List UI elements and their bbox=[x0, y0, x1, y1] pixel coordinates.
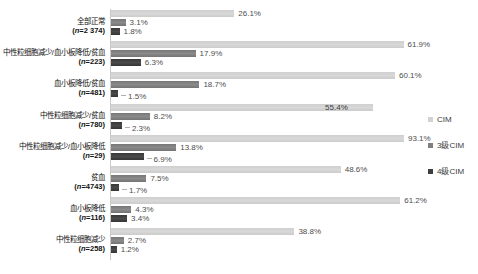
category-label: 血小板降低/贫血(n=481) bbox=[0, 79, 105, 97]
chart-row: 中性粒细胞减少(n=258)38.8%2.7%1.2% bbox=[0, 228, 478, 256]
category-label: 血小板降低(n=116) bbox=[0, 204, 105, 222]
bar-row-cim: 48.6% bbox=[111, 166, 474, 173]
bar-cim bbox=[111, 10, 234, 17]
bar-cim bbox=[111, 41, 404, 48]
category-name: 贫血 bbox=[0, 173, 105, 182]
value-label: 1.5% bbox=[121, 92, 146, 101]
category-n-label: (n=4743) bbox=[0, 182, 105, 191]
legend: CIM3级CIM4级CIM bbox=[428, 115, 464, 176]
legend-label-g4: 4级CIM bbox=[437, 167, 464, 176]
bar-g4 bbox=[111, 184, 119, 191]
leader-line bbox=[125, 127, 130, 128]
legend-label-g3: 3级CIM bbox=[437, 141, 464, 150]
value-label: 7.5% bbox=[150, 174, 168, 183]
bar-g3 bbox=[111, 144, 176, 151]
bar-g4 bbox=[111, 90, 118, 97]
value-label: 1.2% bbox=[121, 245, 139, 254]
category-n-label: (n=258) bbox=[0, 244, 105, 253]
plot-area: 全部正常(n=2 374)26.1%3.1%1.8%中性粒细胞减少/血小板降低/… bbox=[0, 10, 478, 264]
value-label: 3.1% bbox=[130, 18, 148, 27]
chart-row: 中性粒细胞减少/血小板降低/贫血(n=223)61.9%17.9%6.3% bbox=[0, 41, 478, 69]
category-name: 血小板降低/贫血 bbox=[0, 79, 105, 88]
value-label: 6.3% bbox=[145, 58, 163, 67]
value-label: 18.7% bbox=[203, 80, 226, 89]
bar-cim bbox=[111, 135, 404, 142]
category-label: 中性粒细胞减少/血小板降低(n=29) bbox=[0, 142, 105, 160]
bar-row-g3: 13.8% bbox=[111, 144, 474, 151]
bar-row-cim: 61.2% bbox=[111, 197, 474, 204]
chart-row: 中性粒细胞减少/贫血(n=780)55.4%8.2%2.3% bbox=[0, 104, 478, 132]
bar-g4 bbox=[111, 153, 144, 160]
bar-cim bbox=[111, 228, 294, 235]
value-label: 2.3% bbox=[125, 124, 150, 133]
bar-g4 bbox=[111, 215, 127, 222]
bar-g3 bbox=[111, 81, 199, 88]
bar-row-cim: 93.1% bbox=[111, 135, 474, 142]
value-label: 26.1% bbox=[238, 9, 261, 18]
value-label: 48.6% bbox=[345, 165, 368, 174]
bar-row-g4: 1.2% bbox=[111, 246, 474, 253]
legend-item-cim: CIM bbox=[428, 115, 464, 124]
bar-row-cim: 61.9% bbox=[111, 41, 474, 48]
bar-row-g4: 6.9% bbox=[111, 153, 474, 160]
category-name: 中性粒细胞减少/血小板降低/贫血 bbox=[0, 48, 105, 57]
category-name: 全部正常 bbox=[0, 17, 105, 26]
bar-g4 bbox=[111, 59, 141, 66]
legend-item-g3: 3级CIM bbox=[428, 141, 464, 150]
bar-g4 bbox=[111, 122, 122, 129]
chart-row: 中性粒细胞减少/血小板降低(n=29)93.1%13.8%6.9% bbox=[0, 135, 478, 163]
leader-line bbox=[121, 95, 126, 96]
category-label: 贫血(n=4743) bbox=[0, 173, 105, 191]
category-n-label: (n=223) bbox=[0, 57, 105, 66]
value-label: 1.7% bbox=[122, 186, 147, 195]
bar-row-g4: 1.5% bbox=[111, 90, 474, 97]
value-label: 3.4% bbox=[131, 214, 149, 223]
value-label: 2.7% bbox=[128, 236, 146, 245]
bar-row-g4: 6.3% bbox=[111, 59, 474, 66]
category-label: 全部正常(n=2 374) bbox=[0, 17, 105, 35]
leader-line bbox=[122, 189, 127, 190]
bar-row-g3: 17.9% bbox=[111, 50, 474, 57]
chart-row: 血小板降低(n=116)61.2%4.3%3.4% bbox=[0, 197, 478, 225]
value-label: 4.3% bbox=[135, 205, 153, 214]
category-n-label: (n=2 374) bbox=[0, 26, 105, 35]
chart-row: 贫血(n=4743)48.6%7.5%1.7% bbox=[0, 166, 478, 194]
legend-label-cim: CIM bbox=[437, 115, 452, 124]
bar-g3 bbox=[111, 206, 131, 213]
bar-row-g3: 8.2% bbox=[111, 113, 474, 120]
bar-g3 bbox=[111, 19, 126, 26]
bar-row-g3: 3.1% bbox=[111, 19, 474, 26]
bar-cim bbox=[111, 72, 395, 79]
bar-row-g4: 3.4% bbox=[111, 215, 474, 222]
value-label: 6.9% bbox=[147, 155, 172, 164]
bar-row-cim: 55.4% bbox=[111, 104, 474, 111]
bar-row-g4: 1.8% bbox=[111, 28, 474, 35]
category-label: 中性粒细胞减少/血小板降低/贫血(n=223) bbox=[0, 48, 105, 66]
bar-g3 bbox=[111, 50, 196, 57]
chart-row: 血小板降低/贫血(n=481)60.1%18.7%1.5% bbox=[0, 72, 478, 100]
category-label: 中性粒细胞减少(n=258) bbox=[0, 235, 105, 253]
bar-row-cim: 38.8% bbox=[111, 228, 474, 235]
category-name: 中性粒细胞减少/贫血 bbox=[0, 111, 105, 120]
legend-swatch-g3 bbox=[428, 143, 433, 148]
category-name: 中性粒细胞减少/血小板降低 bbox=[0, 142, 105, 151]
bar-g3 bbox=[111, 113, 150, 120]
value-label: 38.8% bbox=[298, 227, 321, 236]
bar-row-g3: 18.7% bbox=[111, 81, 474, 88]
bar-g4 bbox=[111, 28, 120, 35]
value-label: 1.8% bbox=[124, 27, 142, 36]
bar-row-cim: 60.1% bbox=[111, 72, 474, 79]
value-label: 61.2% bbox=[404, 196, 427, 205]
legend-item-g4: 4级CIM bbox=[428, 167, 464, 176]
bar-row-g4: 2.3% bbox=[111, 122, 474, 129]
value-label: 8.2% bbox=[154, 112, 172, 121]
legend-swatch-g4 bbox=[428, 169, 433, 174]
bar-cim bbox=[111, 166, 341, 173]
category-n-label: (n=29) bbox=[0, 151, 105, 160]
legend-swatch-cim bbox=[428, 117, 433, 122]
bar-row-g3: 7.5% bbox=[111, 175, 474, 182]
value-label: 17.9% bbox=[200, 49, 223, 58]
cim-incidence-bar-chart: 全部正常(n=2 374)26.1%3.1%1.8%中性粒细胞减少/血小板降低/… bbox=[0, 0, 478, 274]
category-n-label: (n=780) bbox=[0, 120, 105, 129]
leader-line bbox=[147, 158, 152, 159]
